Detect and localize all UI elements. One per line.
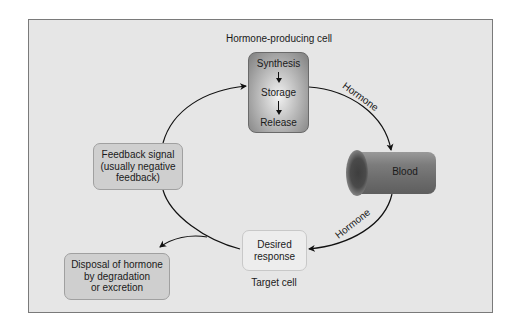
step-storage: Storage [249,87,308,98]
blood-vessel-node: Blood [346,150,438,196]
blood-label: Blood [376,166,434,178]
disposal-node: Disposal of hormone by degradation or ex… [64,253,170,300]
step-release: Release [249,117,308,128]
disposal-line-3: or excretion [91,282,143,294]
feedback-line-2: (usually negative [100,161,175,173]
feedback-signal-node: Feedback signal (usually negative feedba… [93,143,183,190]
feedback-line-1: Feedback signal [102,149,175,161]
target-line-2: response [254,251,295,263]
desired-response-node: Desired response [242,230,307,271]
producing-cell-node: Synthesis Storage Release [248,52,309,133]
feedback-line-3: feedback) [116,172,160,184]
disposal-line-1: Disposal of hormone [71,259,163,271]
step-synthesis: Synthesis [249,58,308,69]
producing-cell-caption: Hormone-producing cell [219,33,339,45]
target-line-1: Desired [257,239,291,251]
vessel-opening [346,150,368,196]
target-cell-caption: Target cell [234,277,314,289]
disposal-line-2: by degradation [84,271,150,283]
